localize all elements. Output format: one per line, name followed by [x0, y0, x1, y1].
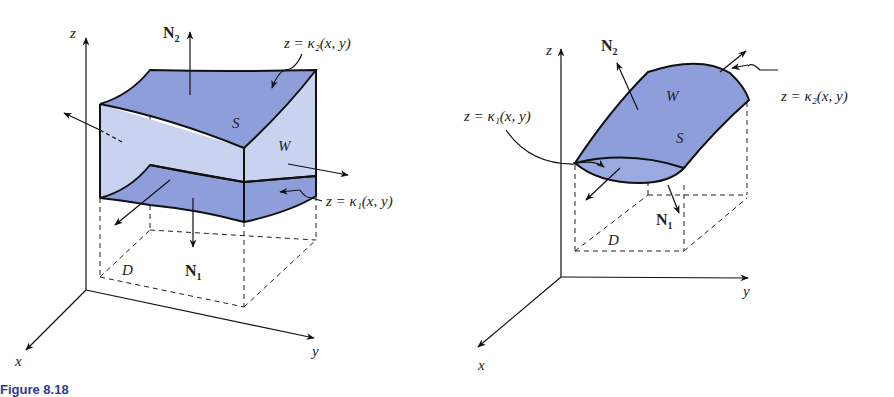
- left-n2-label: N2: [163, 24, 180, 44]
- left-w-label: W: [278, 138, 292, 154]
- right-x-label: x: [477, 357, 485, 373]
- right-kappa2-label: z = κ₂(x, y): [780, 88, 848, 105]
- normal-n1-arrow-icon: [668, 185, 679, 213]
- left-z-label: z: [69, 25, 76, 41]
- normal-top-right-arrow-icon: [720, 51, 746, 72]
- right-y-label: y: [741, 283, 750, 299]
- left-y-label: y: [310, 343, 319, 359]
- right-d-label: D: [607, 232, 619, 248]
- x-axis-arrow-icon: [26, 290, 86, 350]
- left-x-label: x: [14, 353, 22, 369]
- left-n1-label: N1: [185, 262, 202, 282]
- top-pointer-arrow-icon: [732, 65, 748, 68]
- y-axis-arrow-icon: [86, 290, 314, 338]
- left-s-label: S: [232, 115, 240, 131]
- left-d-label: D: [121, 262, 133, 278]
- figure-caption: Figure 8.18: [0, 382, 69, 397]
- y-axis-arrow-icon: [561, 277, 748, 278]
- right-kappa1-label: z = κ₁(x, y): [463, 108, 531, 125]
- x-axis-arrow-icon: [478, 277, 561, 347]
- right-z-label: z: [545, 42, 552, 58]
- right-n1-label: N1: [656, 211, 673, 231]
- right-diagram: z y x N2 N1 S W D z = κ₂(x, y) z = κ₁(x,…: [463, 37, 848, 373]
- left-diagram: z y x N2 N1 S W D z = κ₂(x, y) z = κ₁(x,…: [14, 24, 393, 369]
- left-kappa2-label: z = κ₂(x, y): [283, 35, 351, 52]
- right-n2-label: N2: [601, 37, 618, 57]
- left-kappa1-label: z = κ₁(x, y): [325, 193, 393, 210]
- right-s-label: S: [676, 130, 684, 146]
- normal-left-arrow-icon: [64, 113, 100, 130]
- right-w-label: W: [666, 88, 680, 104]
